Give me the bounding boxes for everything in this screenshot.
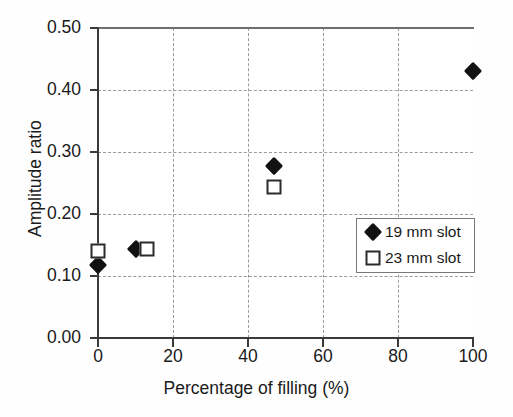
plot-top-border: [97, 27, 474, 29]
y-axis-tick-label: 0.50: [19, 19, 81, 37]
data-point-open-square: [139, 242, 154, 257]
open-square-icon: [364, 249, 382, 267]
x-axis-tick-label: 100: [443, 348, 503, 366]
gridline-horizontal: [98, 90, 473, 91]
x-axis-tick-label: 80: [368, 348, 428, 366]
y-axis-tick: [90, 151, 99, 153]
legend-entry: 19 mm slot: [357, 219, 474, 245]
y-axis-tick: [90, 27, 99, 29]
legend-entry: 23 mm slot: [357, 245, 474, 271]
data-point-open-square: [91, 244, 106, 259]
gridline-vertical: [248, 28, 249, 338]
legend-entry-label: 19 mm slot: [385, 223, 461, 241]
legend: 19 mm slot 23 mm slot: [356, 218, 475, 273]
x-axis-line: [97, 337, 474, 339]
gridline-vertical: [323, 28, 324, 338]
gridline-vertical: [173, 28, 174, 338]
y-axis-tick: [90, 89, 99, 91]
data-point-open-square: [267, 180, 282, 195]
y-axis-tick: [90, 275, 99, 277]
y-axis-tick: [90, 213, 99, 215]
gridline-horizontal: [98, 276, 473, 277]
y-axis-line: [97, 27, 99, 339]
x-axis-tick-label: 60: [293, 348, 353, 366]
plot-area: [98, 28, 473, 338]
y-axis-tick-label: 0.00: [19, 329, 81, 347]
x-axis-tick-label: 0: [68, 348, 128, 366]
x-axis-tick-label: 20: [143, 348, 203, 366]
scatter-chart-figure: 0.000.100.200.300.400.50 020406080100 Am…: [0, 0, 513, 417]
x-axis-title: Percentage of filling (%): [0, 378, 513, 399]
gridline-horizontal: [98, 214, 473, 215]
gridline-vertical: [398, 28, 399, 338]
legend-entry-label: 23 mm slot: [385, 249, 461, 267]
y-axis-title: Amplitude ratio: [25, 84, 46, 274]
filled-diamond-icon: [364, 223, 382, 241]
x-axis-tick-label: 40: [218, 348, 278, 366]
gridline-horizontal: [98, 152, 473, 153]
